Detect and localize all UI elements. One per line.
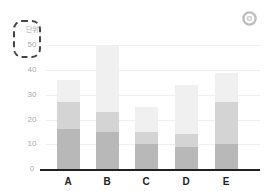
x-axis-baseline (40, 169, 260, 171)
bar-segment (96, 112, 119, 132)
bar-segment (215, 102, 238, 144)
y-tick-label: 20 (22, 115, 42, 125)
x-tick-label: A (57, 176, 80, 187)
bar-segment (175, 134, 198, 146)
x-tick-label: D (175, 176, 198, 187)
ring-icon[interactable] (242, 11, 257, 26)
bar-segment (57, 80, 80, 102)
bar-segment (215, 144, 238, 169)
bar-segment (57, 102, 80, 129)
x-tick-label: B (96, 176, 119, 187)
bar-segment (135, 107, 158, 132)
bar-d (175, 85, 198, 169)
y-tick-label: 0 (22, 164, 42, 174)
bar-segment (135, 132, 158, 144)
bar-segment (175, 147, 198, 169)
bar-c (135, 107, 158, 169)
bar-segment (175, 85, 198, 134)
gridline (46, 45, 260, 46)
bar-segment (135, 144, 158, 169)
stacked-bar-chart: 단위 01020304050 ABCDE (0, 0, 270, 191)
x-tick-label: E (215, 176, 238, 187)
bar-segment (215, 73, 238, 103)
bar-segment (96, 46, 119, 113)
unit-label: 단위 (22, 24, 42, 34)
bar-b (96, 46, 119, 170)
bar-a (57, 80, 80, 169)
bar-segment (57, 129, 80, 169)
bar-segment (96, 132, 119, 169)
y-tick-label: 50 (22, 40, 42, 50)
y-tick-label: 30 (22, 90, 42, 100)
y-tick-label: 10 (22, 139, 42, 149)
gridline (46, 70, 260, 71)
y-tick-label: 40 (22, 65, 42, 75)
x-tick-label: C (135, 176, 158, 187)
bar-e (215, 73, 238, 169)
